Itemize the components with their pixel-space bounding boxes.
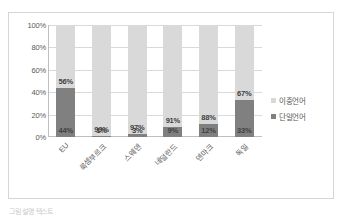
bar-slot-eu: 56% 44%	[48, 25, 84, 137]
bar-label-bilingual-denmark: 88%	[201, 113, 215, 122]
plot-area: 56% 44% 99% 1	[48, 25, 262, 137]
x-axis-slot-germany: 독일	[226, 139, 262, 195]
bar-segment-bilingual-denmark[interactable]: 88%	[199, 25, 218, 124]
bar-slot-netherlands: 91% 9%	[155, 25, 191, 137]
legend-item-bilingual[interactable]: 이중언어	[271, 95, 331, 106]
stacked-bar-sweden[interactable]: 97% 3%	[128, 25, 147, 137]
legend-item-monolingual[interactable]: 단일언어	[271, 111, 331, 122]
legend-swatch-icon-monolingual	[271, 114, 276, 119]
stacked-bar-luxembourg[interactable]: 99% 1%	[92, 25, 111, 137]
x-axis: EU 룩셈부르크 스웨덴 네덜란드 덴마크 독일	[48, 139, 262, 195]
y-axis-tick-20: 20%	[32, 110, 46, 119]
bar-segment-monolingual-eu[interactable]: 44%	[56, 88, 75, 137]
bar-segment-bilingual-germany[interactable]: 67%	[235, 25, 254, 100]
legend-label-bilingual: 이중언어	[279, 95, 306, 106]
figure-caption: 그림 설명 텍스트	[9, 206, 335, 216]
bar-label-bilingual-eu: 56%	[59, 77, 73, 86]
legend-label-monolingual: 단일언어	[279, 111, 306, 122]
y-axis-tick-100: 100%	[28, 21, 46, 30]
bar-series-group: 56% 44% 99% 1	[48, 25, 262, 137]
chart-plot-wrapper: 100% 80% 60% 40% 20% 0%	[9, 13, 333, 198]
bar-segment-bilingual-sweden[interactable]: 97%	[128, 25, 147, 134]
y-axis-tick-40: 40%	[32, 88, 46, 97]
y-axis-tick-80: 80%	[32, 43, 46, 52]
x-axis-label-germany-text: 독일	[233, 141, 250, 158]
chart-page: 100% 80% 60% 40% 20% 0%	[0, 0, 342, 217]
x-axis-slot-netherlands: 네덜란드	[155, 139, 191, 195]
x-axis-slot-sweden: 스웨덴	[119, 139, 155, 195]
chart-legend: 이중언어 단일언어	[271, 95, 331, 127]
bar-segment-bilingual-eu[interactable]: 56%	[56, 25, 75, 88]
x-axis-slot-denmark: 덴마크	[191, 139, 227, 195]
y-axis-tick-0: 0%	[36, 133, 46, 142]
stacked-bar-netherlands[interactable]: 91% 9%	[163, 25, 182, 137]
x-axis-label-netherlands-text: 네덜란드	[152, 141, 179, 168]
bar-slot-luxembourg: 99% 1%	[84, 25, 120, 137]
stacked-bar-germany[interactable]: 67% 33%	[235, 25, 254, 137]
bar-label-bilingual-netherlands: 91%	[166, 116, 180, 125]
y-axis-tick-60: 60%	[32, 65, 46, 74]
bar-slot-denmark: 88% 12%	[191, 25, 227, 137]
legend-swatch-icon-bilingual	[271, 98, 276, 103]
x-axis-label-eu-text: EU	[57, 141, 70, 154]
stacked-bar-eu[interactable]: 56% 44%	[56, 25, 75, 137]
chart-frame: 100% 80% 60% 40% 20% 0%	[8, 12, 334, 199]
stacked-bar-denmark[interactable]: 88% 12%	[199, 25, 218, 137]
bar-slot-germany: 67% 33%	[226, 25, 262, 137]
bar-segment-bilingual-netherlands[interactable]: 91%	[163, 25, 182, 127]
y-axis: 100% 80% 60% 40% 20% 0%	[12, 25, 46, 137]
x-axis-slot-luxembourg: 룩셈부르크	[84, 139, 120, 195]
bar-segment-bilingual-luxembourg[interactable]: 99%	[92, 25, 111, 136]
x-axis-label-sweden-text: 스웨덴	[121, 141, 143, 163]
x-axis-label-denmark-text: 덴마크	[192, 141, 214, 163]
bar-label-monolingual-luxembourg: 1%	[96, 126, 106, 135]
bar-label-bilingual-germany: 67%	[237, 89, 251, 98]
